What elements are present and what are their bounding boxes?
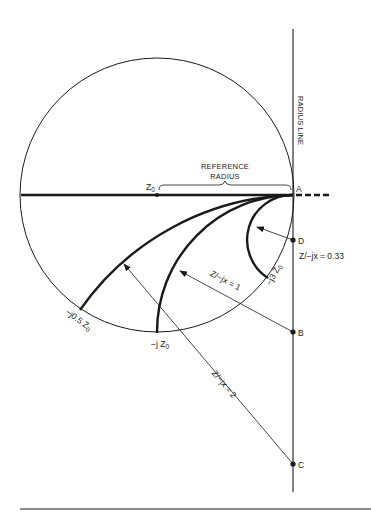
radius-line-label: RADIUS LINE bbox=[296, 96, 305, 145]
ratio-label-d: Z/−jx = 0.33 bbox=[299, 251, 344, 261]
z0-label: Z0 bbox=[146, 182, 155, 193]
point-b-label: B bbox=[298, 328, 304, 338]
point-b bbox=[290, 329, 295, 334]
curve-label-j1: −j Z0 bbox=[151, 339, 169, 350]
radius-arrow-d bbox=[257, 227, 293, 240]
reactance-arc-j05 bbox=[80, 195, 293, 310]
point-c-label: C bbox=[298, 460, 304, 470]
reference-radius-label-line2: RADIUS bbox=[210, 172, 240, 181]
point-d bbox=[290, 237, 295, 242]
reference-radius-label-line1: REFERENCE bbox=[201, 162, 249, 171]
reactance-arc-j1 bbox=[157, 195, 293, 333]
reactance-circle-diagram: RADIUS LINE REFERENCE RADIUS Z0 A D B C … bbox=[0, 0, 371, 521]
point-d-label: D bbox=[298, 236, 304, 246]
reactance-arc-j3 bbox=[247, 195, 293, 278]
point-a-label: A bbox=[296, 184, 302, 194]
radius-arrow-c bbox=[124, 264, 293, 464]
ratio-label-c: Z/−jx = 2 bbox=[210, 368, 239, 400]
reference-radius-brace bbox=[159, 181, 291, 190]
curve-label-j05: −j0.5 Z0 bbox=[63, 307, 94, 334]
point-c bbox=[290, 461, 295, 466]
z0-center-point bbox=[155, 193, 159, 197]
